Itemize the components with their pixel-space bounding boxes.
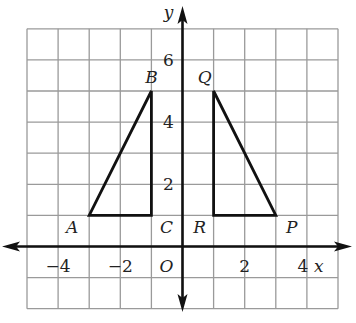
vertex-label-q: Q [198,67,212,87]
vertex-label-a: A [64,217,78,237]
y-tick-label: 4 [163,112,174,132]
x-tick-label: −2 [108,256,133,276]
x-tick-label: −4 [46,256,71,276]
vertex-label-r: R [192,217,206,237]
y-axis-label: y [163,2,174,22]
coordinate-plane: −4−224246xyOABCPQR [0,0,356,323]
labels: −4−224246xyOABCPQR [46,2,325,276]
x-axis-label: x [314,256,324,276]
y-tick-label: 6 [163,50,174,70]
x-tick-label: 2 [239,256,250,276]
x-tick-label: 4 [297,256,308,276]
origin-label: O [160,256,174,276]
vertex-label-b: B [144,67,158,87]
vertex-label-p: P [285,217,298,237]
vertex-label-c: C [160,217,173,237]
y-tick-label: 2 [163,174,174,194]
